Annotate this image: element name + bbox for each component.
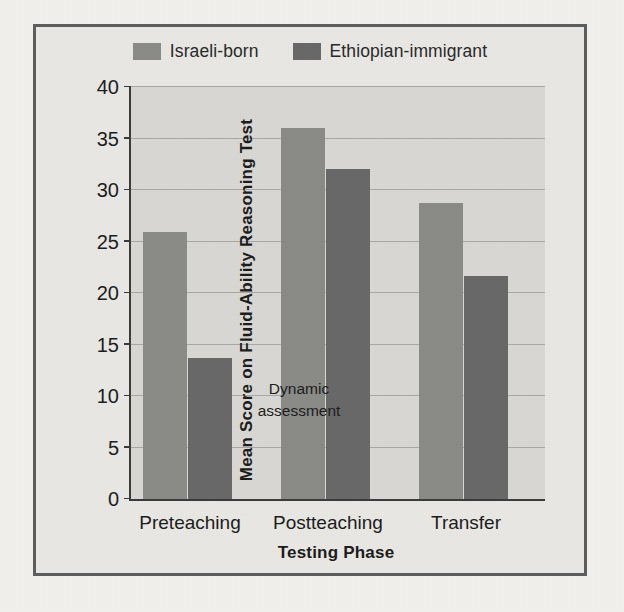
x-axis-title: Testing Phase — [129, 543, 543, 563]
y-axis-tick — [124, 343, 131, 345]
y-axis-tick — [124, 395, 131, 397]
bar-preteaching-ethiopian-immigrant — [188, 358, 232, 499]
y-axis-tick — [124, 240, 131, 242]
y-axis-tick-label: 25 — [97, 230, 119, 253]
y-axis-tick-label: 40 — [97, 76, 119, 99]
y-axis-tick-label: 20 — [97, 282, 119, 305]
y-axis-tick — [124, 292, 131, 294]
y-axis-tick-label: 0 — [108, 488, 119, 511]
y-axis-tick — [124, 446, 131, 448]
y-axis-tick-label: 30 — [97, 179, 119, 202]
x-axis-tick-label: Transfer — [431, 512, 501, 534]
y-axis-tick — [124, 86, 131, 88]
y-axis-tick-label: 5 — [108, 436, 119, 459]
bar-preteaching-israeli-born — [143, 232, 187, 499]
figure-frame: Israeli-born Ethiopian-immigrant 0510152… — [33, 24, 587, 576]
y-axis-tick-label: 35 — [97, 127, 119, 150]
gridline — [131, 86, 545, 87]
bar-transfer-ethiopian-immigrant — [464, 276, 508, 500]
bar-transfer-israeli-born — [419, 203, 463, 499]
y-axis-tick — [124, 498, 131, 500]
plot-area: 0510152025303540PreteachingPostteachingT… — [129, 87, 545, 501]
y-axis-tick-label: 10 — [97, 385, 119, 408]
x-axis-tick-label: Postteaching — [273, 512, 383, 534]
y-axis-tick — [124, 189, 131, 191]
x-axis-tick-label: Preteaching — [139, 512, 240, 534]
y-axis-tick — [124, 137, 131, 139]
bar-postteaching-israeli-born — [281, 128, 325, 499]
gridline — [131, 138, 545, 139]
y-axis-tick-label: 15 — [97, 333, 119, 356]
y-axis-title: Mean Score on Fluid-Ability Reasoning Te… — [237, 119, 257, 481]
bar-postteaching-ethiopian-immigrant — [326, 169, 370, 499]
plot-wrapper: 0510152025303540PreteachingPostteachingT… — [36, 27, 584, 573]
